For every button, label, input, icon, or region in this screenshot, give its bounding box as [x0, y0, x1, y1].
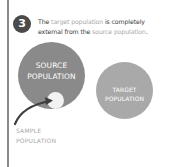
sample-label-line2: POPULATION [16, 137, 56, 144]
sample-population-label: SAMPLE POPULATION [16, 126, 56, 146]
sample-label-line1: SAMPLE [16, 127, 41, 134]
